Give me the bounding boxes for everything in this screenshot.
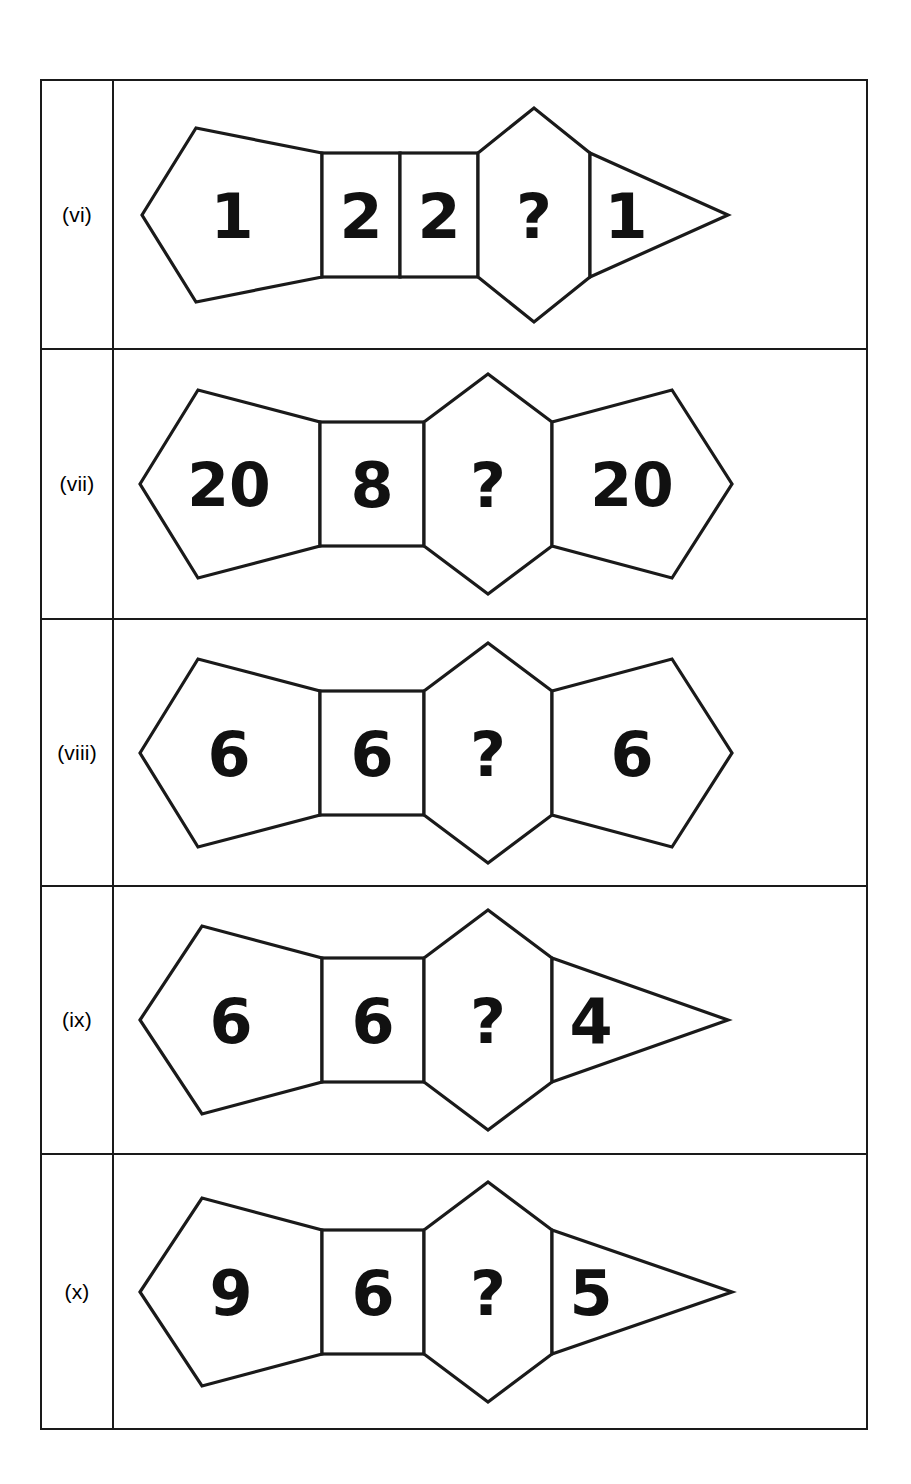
cell-value: 2 [417,179,460,252]
cell-value: 6 [351,1256,394,1329]
row-figure-cell: 9 6 ? 5 [114,1155,866,1428]
row-label-cell: (ix) [42,887,114,1153]
cell-value: ? [470,1256,506,1329]
row-label-cell: (vii) [42,350,114,618]
table-row: (viii) 6 6 ? 6 [42,620,866,887]
row-label: (x) [64,1280,89,1304]
row-label: (ix) [62,1008,92,1032]
table-row: (x) 9 6 ? 5 [42,1155,866,1428]
puzzle-figure-viii: 6 6 ? 6 [132,633,752,873]
row-label: (vii) [60,472,95,496]
puzzle-figure-vi: 1 2 2 ? 1 [132,100,752,330]
table-row: (vii) 20 8 ? 20 [42,350,866,620]
row-label-cell: (x) [42,1155,114,1428]
table-row: (vi) 1 2 2 ? 1 [42,81,866,350]
cell-value: 6 [351,985,394,1058]
cell-value: ? [470,717,506,790]
cell-value: 4 [569,985,612,1058]
cell-value: 2 [339,179,382,252]
row-label-cell: (vi) [42,81,114,348]
cell-value: 1 [604,179,647,252]
cell-value: 20 [187,450,271,520]
cell-value: 6 [350,717,393,790]
row-label: (viii) [57,741,97,765]
cell-value: 8 [350,449,393,522]
puzzle-figure-ix: 6 6 ? 4 [132,900,752,1140]
row-label-cell: (viii) [42,620,114,885]
cell-value: 5 [569,1256,612,1329]
cell-value: 6 [207,717,250,790]
cell-value: 6 [209,985,252,1058]
cell-value: ? [516,179,552,252]
cell-value: 9 [209,1256,252,1329]
row-figure-cell: 6 6 ? 4 [114,887,866,1153]
cell-value: ? [470,449,506,522]
cell-value: 20 [590,450,674,520]
row-figure-cell: 1 2 2 ? 1 [114,81,866,348]
row-label: (vi) [62,203,92,227]
table-row: (ix) 6 6 ? 4 [42,887,866,1155]
row-figure-cell: 6 6 ? 6 [114,620,866,885]
puzzle-figure-vii: 20 8 ? 20 [132,364,752,604]
cell-value: 1 [210,179,253,252]
puzzle-figure-x: 9 6 ? 5 [132,1172,752,1412]
puzzle-table: (vi) 1 2 2 ? 1 (vii) [40,79,868,1430]
cell-value: ? [470,985,506,1058]
row-figure-cell: 20 8 ? 20 [114,350,866,618]
cell-value: 6 [610,717,653,790]
